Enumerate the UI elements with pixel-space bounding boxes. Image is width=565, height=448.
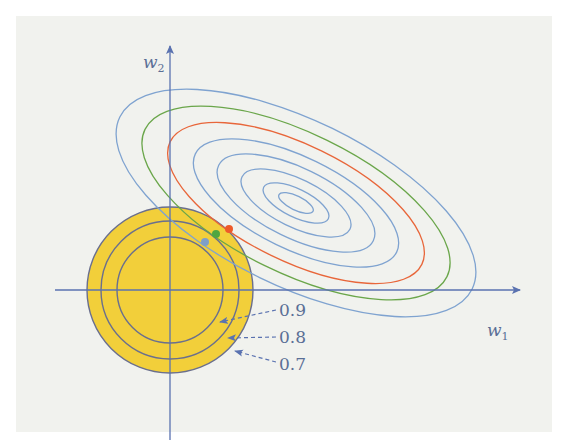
tangent-dot-red (225, 225, 233, 233)
level-label-0.8: 0.8 (279, 327, 306, 347)
y-axis-label: w2 (143, 52, 165, 75)
regularization-diagram: 0.9 0.8 0.7 w2 w1 (0, 0, 565, 448)
x-axis-label: w1 (487, 320, 509, 343)
tangent-dot-blue (201, 238, 209, 246)
level-label-0.9: 0.9 (279, 300, 306, 320)
tangent-dot-green (212, 230, 220, 238)
level-label-0.7: 0.7 (279, 354, 306, 374)
